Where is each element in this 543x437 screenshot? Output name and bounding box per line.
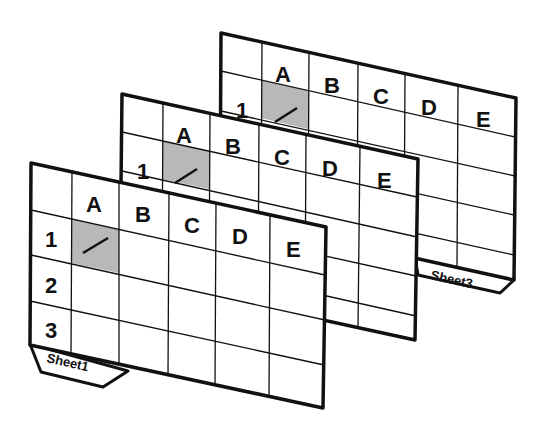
stacked-sheets-diagram: Sheet3 A B C D E 1 xyxy=(0,0,543,437)
sheet2-col-B: B xyxy=(225,134,241,159)
sheet1-col-B: B xyxy=(135,202,151,227)
sheet3-col-E: E xyxy=(476,107,491,132)
sheet1-col-A: A xyxy=(86,192,102,217)
sheet1-row-2: 2 xyxy=(45,273,57,298)
sheet2-col-D: D xyxy=(322,156,338,181)
sheet1-col-D: D xyxy=(232,224,248,249)
sheet3-col-C: C xyxy=(373,84,389,109)
sheet2-col-A: A xyxy=(176,123,192,148)
sheet2-row-1: 1 xyxy=(137,159,149,184)
sheet3-col-D: D xyxy=(421,95,437,120)
sheet2-col-E: E xyxy=(377,168,392,193)
sheet1-row-3: 3 xyxy=(45,318,57,343)
sheet1-row-1: 1 xyxy=(45,227,57,252)
sheet1-col-C: C xyxy=(184,213,200,238)
sheet3-col-A: A xyxy=(275,62,291,87)
sheet1-col-E: E xyxy=(286,237,301,262)
sheet2-col-C: C xyxy=(274,145,290,170)
sheet3-col-B: B xyxy=(324,73,340,98)
